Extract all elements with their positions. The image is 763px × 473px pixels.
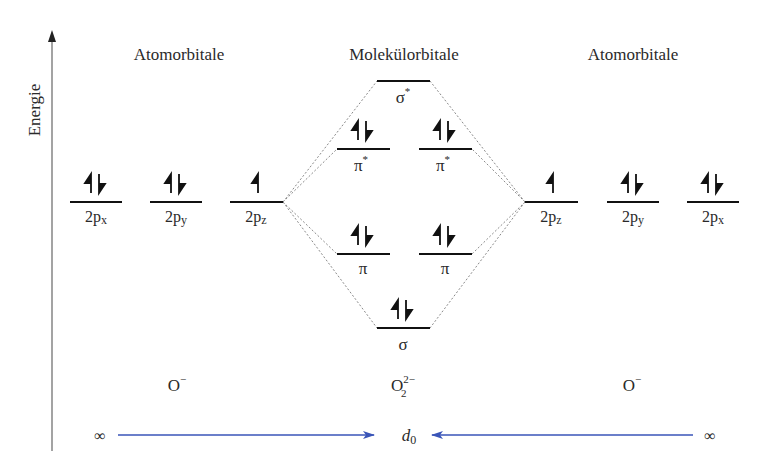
equilibrium-distance: d0	[402, 426, 417, 447]
orbital-label: 2pz	[540, 208, 561, 227]
header-right: Atomorbitale	[588, 45, 679, 64]
correlation-lines-left	[283, 81, 377, 328]
electron-pair-icon	[352, 226, 372, 245]
mo-diagram: Energie Atomorbitale Molekülorbitale Ato…	[0, 0, 763, 473]
molecular-orbitals: σ* π* π* π	[337, 81, 472, 354]
correlation-lines-right	[430, 81, 525, 328]
electron-pair-icon	[434, 121, 454, 140]
orbital-2py-right: 2py	[607, 174, 659, 227]
orbital-label: σ*	[396, 85, 411, 107]
species-right: O−	[623, 373, 642, 395]
orbital-label: π	[359, 259, 368, 278]
electron-up-icon	[547, 174, 553, 193]
left-atom-orbitals: 2px 2py 2pz	[70, 174, 283, 227]
axis-label: Energie	[25, 84, 44, 137]
electron-pair-icon	[352, 121, 372, 140]
orbital-label: π*	[354, 153, 368, 175]
orbital-label: 2px	[85, 208, 107, 227]
energy-axis: Energie	[25, 30, 56, 451]
species-left: O−	[168, 373, 187, 395]
header-center: Molekülorbitale	[349, 45, 459, 64]
orbital-label: π	[441, 259, 450, 278]
orbital-2pz-right: 2pz	[525, 174, 578, 227]
orbital-pi-star-right: π*	[419, 121, 472, 175]
orbital-label: π*	[436, 153, 450, 175]
orbital-2py-left: 2py	[150, 174, 202, 227]
distance-row: ∞ d0 ∞	[94, 426, 715, 447]
orbital-label: 2pz	[245, 208, 266, 227]
electron-pair-icon	[392, 300, 412, 319]
right-atom-orbitals: 2pz 2py 2px	[525, 174, 739, 227]
electron-pair-icon	[622, 174, 642, 193]
electron-pair-icon	[434, 226, 454, 245]
orbital-pi-right: π	[419, 226, 472, 278]
electron-up-icon	[252, 174, 258, 193]
orbital-sigma-star: σ*	[377, 81, 430, 107]
axis-arrow-icon	[48, 30, 56, 42]
orbital-label: 2py	[622, 208, 644, 227]
orbital-label: σ	[398, 335, 407, 354]
infinity-left: ∞	[94, 427, 105, 444]
species-molecule: O2−2	[391, 373, 415, 399]
orbital-label: 2px	[702, 208, 724, 227]
orbital-pi-left: π	[337, 226, 390, 278]
orbital-2pz-left: 2pz	[230, 174, 283, 227]
electron-pair-icon	[165, 174, 185, 193]
electron-pair-icon	[85, 174, 105, 193]
electron-pair-icon	[702, 174, 722, 193]
orbital-label: 2py	[165, 208, 187, 227]
header-left: Atomorbitale	[134, 45, 225, 64]
orbital-2px-left: 2px	[70, 174, 122, 227]
orbital-2px-right: 2px	[687, 174, 739, 227]
infinity-right: ∞	[704, 427, 715, 444]
orbital-pi-star-left: π*	[337, 121, 390, 175]
orbital-sigma: σ	[377, 300, 430, 354]
